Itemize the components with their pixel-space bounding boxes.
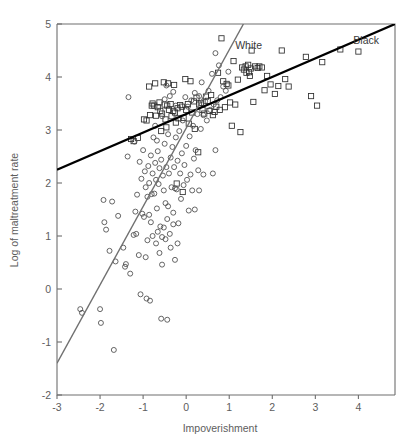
y-tick-label: 5 bbox=[45, 18, 51, 30]
data-point-circle bbox=[188, 172, 193, 177]
data-point-square bbox=[308, 93, 313, 98]
x-axis-title: Impoverishment bbox=[183, 422, 258, 434]
data-point-circle bbox=[175, 241, 180, 246]
data-point-circle bbox=[171, 210, 176, 215]
data-point-circle bbox=[104, 227, 109, 232]
data-point-square bbox=[226, 83, 231, 88]
x-tick-label: 2 bbox=[269, 401, 275, 413]
y-axis-ticks: -2-1012345 bbox=[42, 18, 62, 401]
data-point-circle bbox=[167, 231, 172, 236]
data-point-circle bbox=[186, 208, 191, 213]
data-point-circle bbox=[98, 320, 103, 325]
data-point-circle bbox=[148, 153, 153, 158]
data-point-square bbox=[279, 48, 284, 53]
data-point-circle bbox=[223, 88, 228, 93]
data-point-square bbox=[153, 81, 158, 86]
data-point-circle bbox=[213, 148, 218, 153]
x-tick-label: 3 bbox=[312, 401, 318, 413]
data-point-circle bbox=[183, 95, 188, 100]
y-tick-label: 0 bbox=[45, 283, 51, 295]
fit-line-white bbox=[57, 24, 243, 363]
series-white-points bbox=[78, 51, 231, 353]
data-point-circle bbox=[166, 171, 171, 176]
data-point-circle bbox=[110, 199, 115, 204]
data-point-circle bbox=[157, 250, 162, 255]
data-point-square bbox=[233, 102, 238, 107]
data-point-circle bbox=[126, 95, 131, 100]
data-point-circle bbox=[196, 168, 201, 173]
data-point-circle bbox=[159, 316, 164, 321]
data-point-circle bbox=[201, 172, 206, 177]
black-series-label: Black bbox=[353, 34, 379, 46]
y-axis-title: Log of maltreatment rate bbox=[8, 153, 20, 268]
data-point-square bbox=[356, 49, 361, 54]
data-point-circle bbox=[150, 171, 155, 176]
data-point-square bbox=[235, 77, 240, 82]
data-point-circle bbox=[107, 248, 112, 253]
data-point-circle bbox=[153, 160, 158, 165]
data-point-circle bbox=[159, 157, 164, 162]
data-point-square bbox=[227, 100, 232, 105]
data-point-circle bbox=[142, 169, 147, 174]
data-point-circle bbox=[213, 51, 218, 56]
data-point-circle bbox=[150, 234, 155, 239]
data-point-square bbox=[229, 123, 234, 128]
data-point-circle bbox=[198, 126, 203, 131]
data-point-circle bbox=[98, 307, 103, 312]
data-point-circle bbox=[135, 192, 140, 197]
data-point-circle bbox=[139, 176, 144, 181]
data-point-circle bbox=[145, 238, 150, 243]
data-point-circle bbox=[187, 134, 192, 139]
data-point-circle bbox=[155, 229, 160, 234]
x-tick-label: 4 bbox=[355, 401, 361, 413]
data-point-square bbox=[147, 113, 152, 118]
data-point-circle bbox=[143, 255, 148, 260]
data-point-circle bbox=[167, 94, 172, 99]
data-point-circle bbox=[191, 156, 196, 161]
data-point-circle bbox=[175, 158, 180, 163]
data-point-square bbox=[272, 91, 277, 96]
data-point-square bbox=[219, 36, 224, 41]
data-point-square bbox=[147, 84, 152, 89]
data-point-circle bbox=[204, 118, 209, 123]
y-tick-label: -1 bbox=[42, 336, 51, 348]
data-point-circle bbox=[155, 149, 160, 154]
data-point-square bbox=[174, 181, 179, 186]
scatter-chart: -3-2-101234 -2-1012345 WhiteBlack Impove… bbox=[0, 0, 415, 444]
data-point-circle bbox=[138, 292, 143, 297]
data-point-circle bbox=[162, 97, 167, 102]
fit-line-black bbox=[57, 24, 395, 170]
data-point-square bbox=[283, 77, 288, 82]
data-point-circle bbox=[146, 164, 151, 169]
data-point-circle bbox=[177, 129, 182, 134]
data-point-circle bbox=[210, 171, 215, 176]
data-point-circle bbox=[148, 220, 153, 225]
data-point-square bbox=[172, 82, 177, 87]
data-point-circle bbox=[143, 185, 148, 190]
data-point-circle bbox=[173, 135, 178, 140]
data-point-circle bbox=[161, 225, 166, 230]
data-point-circle bbox=[197, 188, 202, 193]
data-point-square bbox=[231, 59, 236, 64]
data-point-circle bbox=[165, 317, 170, 322]
data-point-square bbox=[183, 77, 188, 82]
y-tick-label: 1 bbox=[45, 230, 51, 242]
data-point-square bbox=[320, 60, 325, 65]
data-point-circle bbox=[154, 138, 159, 143]
data-point-square bbox=[238, 130, 243, 135]
data-point-square bbox=[169, 114, 174, 119]
data-point-circle bbox=[184, 143, 189, 148]
data-points bbox=[78, 36, 361, 353]
data-point-circle bbox=[147, 181, 152, 186]
data-point-circle bbox=[166, 132, 171, 137]
data-point-square bbox=[168, 101, 173, 106]
data-point-square bbox=[303, 54, 308, 59]
data-point-circle bbox=[102, 220, 107, 225]
y-tick-label: -2 bbox=[42, 389, 51, 401]
y-tick-label: 3 bbox=[45, 124, 51, 136]
white-series-label: White bbox=[235, 39, 262, 51]
data-point-circle bbox=[133, 209, 138, 214]
data-point-circle bbox=[161, 188, 166, 193]
data-point-circle bbox=[185, 177, 190, 182]
x-axis-ticks: -3-2-101234 bbox=[52, 395, 361, 413]
